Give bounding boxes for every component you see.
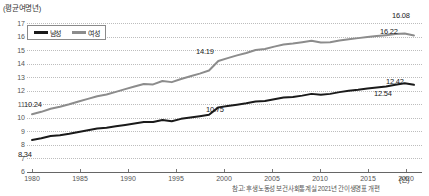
data-label-female-1980: 10.24: [24, 101, 42, 109]
data-label-male-1980: 8.34: [18, 151, 32, 159]
data-label-female-2021: 16.08: [392, 12, 410, 20]
legend-item-male: 남성: [34, 28, 61, 38]
data-label-female-2020: 16.22: [380, 28, 398, 36]
chart-footnote: 참고: 후생노동성 보건사회통계실 2021년 간이생명표 개편: [232, 183, 380, 193]
legend-swatch-female-icon: [72, 31, 86, 34]
data-label-male-2021: 12.42: [386, 78, 404, 86]
legend-item-female: 여성: [72, 28, 99, 38]
data-label-male-2000: 10.75: [206, 106, 224, 114]
legend-label-female: 여성: [88, 28, 99, 38]
legend-swatch-male-icon: [34, 31, 48, 34]
life-expectancy-chart: (평균여명년) 17 16 15 14 13 12 11 10 9 8 7 6 …: [0, 0, 429, 196]
data-label-male-2020: 12.54: [374, 90, 392, 98]
data-label-female-2000: 14.19: [196, 48, 214, 56]
chart-legend: 남성 여성: [27, 25, 106, 40]
legend-label-male: 남성: [50, 28, 61, 38]
series-line-여성: [32, 34, 414, 115]
